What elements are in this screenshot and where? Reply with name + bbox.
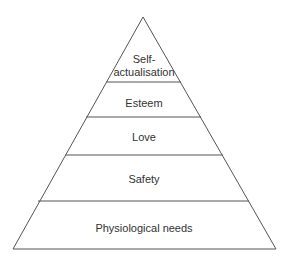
level-esteem: Esteem: [125, 97, 162, 109]
level-selfactualisation-line1: Self-: [133, 53, 156, 65]
level-love: Love: [132, 131, 156, 143]
level-safety: Safety: [128, 173, 160, 185]
pyramid-diagram: Self- actualisation Esteem Love Safety P…: [0, 0, 292, 261]
level-physiological-needs: Physiological needs: [95, 222, 193, 234]
level-selfactualisation-line2: actualisation: [113, 66, 174, 78]
